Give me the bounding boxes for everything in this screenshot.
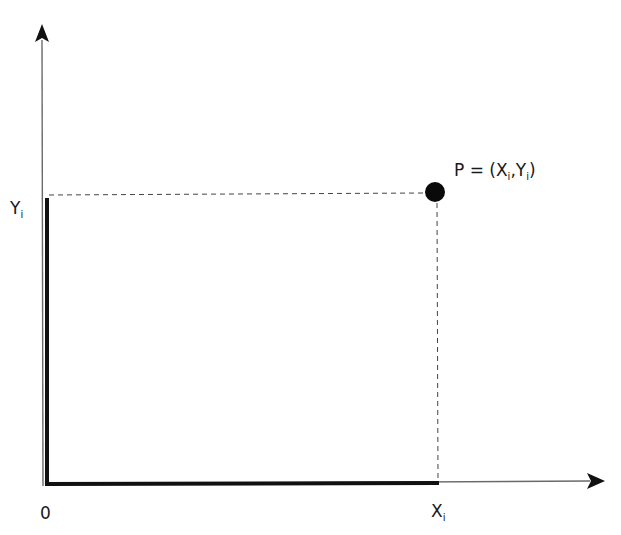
y-label-sub: i: [20, 209, 23, 220]
point-label-prefix: P = (: [454, 160, 496, 180]
y-axis-label: Yi: [10, 200, 23, 220]
point-p: [425, 182, 445, 202]
coordinate-diagram: [0, 0, 621, 535]
x-label-base: X: [431, 501, 443, 521]
point-label: P = (Xi,Yi): [454, 162, 536, 182]
point-label-x: X: [496, 160, 508, 180]
x-axis-label: Xi: [431, 503, 445, 523]
vertical-dashed-guide: [437, 203, 438, 481]
y-label-base: Y: [10, 198, 20, 218]
x-bold-segment: [45, 483, 439, 484]
y-axis-arrow-icon: [35, 24, 49, 42]
origin-text: 0: [40, 503, 51, 523]
point-label-suffix: ): [529, 160, 536, 180]
x-label-sub: i: [443, 512, 446, 523]
origin-label: 0: [40, 505, 51, 522]
horizontal-dashed-guide: [49, 193, 425, 195]
y-axis: [42, 40, 43, 486]
point-label-y: Y: [516, 160, 526, 180]
